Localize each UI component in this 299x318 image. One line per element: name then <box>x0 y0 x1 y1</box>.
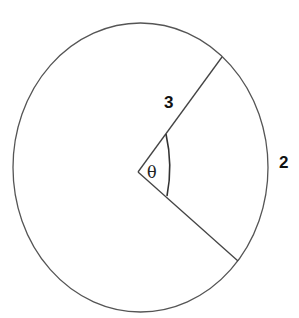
arc-length-label: 2 <box>279 153 288 172</box>
angle-label-theta: θ <box>147 163 157 182</box>
angle-arc <box>166 134 170 196</box>
sector-diagram: θ 3 2 <box>0 0 299 318</box>
radius-label: 3 <box>164 93 173 112</box>
radius-line-upper <box>138 57 222 172</box>
radius-line-lower <box>138 172 238 261</box>
